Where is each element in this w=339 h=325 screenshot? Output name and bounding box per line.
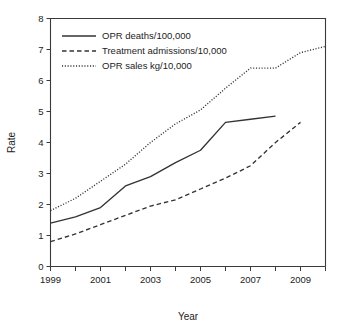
y-axis-tick-label: 2: [38, 199, 43, 210]
chart-figure: 012345678199920012003200520072009YearRat…: [0, 0, 339, 325]
line-chart: 012345678199920012003200520072009YearRat…: [0, 0, 339, 325]
y-axis-tick-label: 0: [38, 261, 43, 272]
x-axis-tick-label: 2009: [290, 274, 311, 285]
x-axis-tick-label: 2005: [190, 274, 211, 285]
legend-label: OPR sales kg/10,000: [102, 60, 192, 71]
x-axis-tick-label: 2001: [90, 274, 111, 285]
x-axis-title: Year: [178, 311, 199, 322]
legend-label: OPR deaths/100,000: [102, 30, 191, 41]
y-axis-tick-label: 4: [38, 137, 43, 148]
y-axis-tick-label: 3: [38, 168, 43, 179]
y-axis-title: Rate: [6, 132, 17, 154]
x-axis-tick-label: 1999: [40, 274, 61, 285]
y-axis-tick-label: 1: [38, 230, 43, 241]
legend-label: Treatment admissions/10,000: [102, 45, 227, 56]
y-axis-tick-label: 8: [38, 13, 43, 24]
y-axis-tick-label: 7: [38, 44, 43, 55]
series-line-dashed: [51, 122, 301, 241]
y-axis-tick-label: 6: [38, 75, 43, 86]
x-axis-tick-label: 2003: [140, 274, 161, 285]
x-axis-tick-label: 2007: [240, 274, 261, 285]
y-axis-tick-label: 5: [38, 106, 43, 117]
